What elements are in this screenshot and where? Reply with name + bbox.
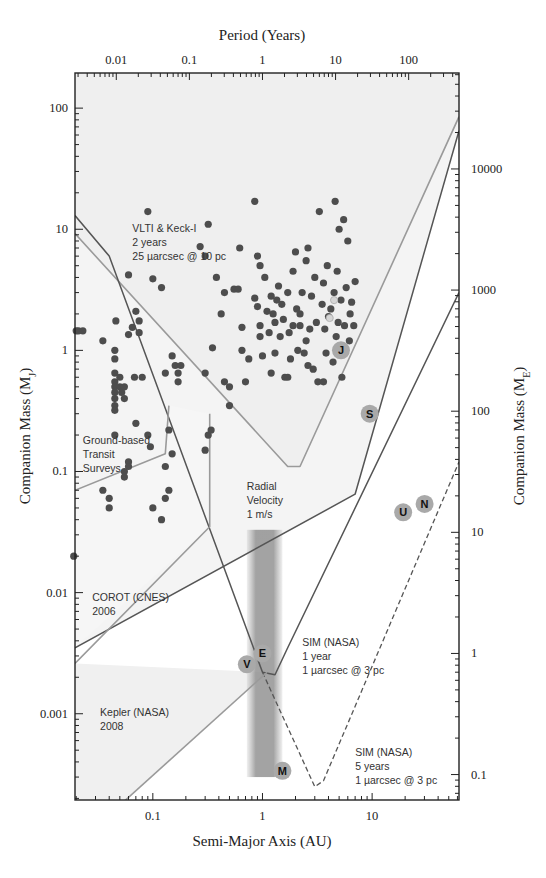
planet-point [139, 374, 146, 381]
planet-point [306, 325, 313, 332]
solar-planet-u: U [394, 503, 412, 521]
annotation-line: Velocity [247, 494, 284, 506]
annotation-line: SIM (NASA) [355, 746, 412, 758]
planet-point [336, 226, 343, 233]
right-tick-label: 1000 [471, 283, 496, 297]
top-tick-label: 10 [329, 53, 342, 67]
annotation-line: SIM (NASA) [302, 636, 359, 648]
x-tick-label: 0.1 [145, 809, 161, 823]
planet-point [136, 317, 143, 324]
planet-point [347, 310, 354, 317]
planet-point [259, 352, 266, 359]
planet-point [121, 395, 128, 402]
planet-point [169, 450, 176, 457]
planet-point [221, 289, 228, 296]
right-tick-label: 10 [471, 525, 484, 539]
solar-planet-v: V [238, 655, 256, 673]
planet-point [209, 344, 216, 351]
planet-point [175, 378, 182, 385]
planet-point [256, 322, 263, 329]
planet-point [344, 237, 351, 244]
planet-point [106, 495, 113, 502]
solar-planet-label: N [421, 498, 429, 510]
right-y-axis-title: Companion Mass (ME) [511, 367, 532, 506]
planet-point [125, 271, 132, 278]
planet-point [316, 208, 323, 215]
annotation-line: Transit [83, 448, 115, 460]
planet-point [129, 324, 136, 331]
planet-point [106, 504, 113, 511]
solar-planet-label: J [338, 344, 344, 356]
planet-point [165, 426, 172, 433]
solar-planet-e: E [253, 644, 271, 662]
planet-point [205, 221, 212, 228]
solar-planet-label: S [366, 408, 373, 420]
annotation-line: 2 years [132, 236, 166, 248]
highlighted-planet-point [330, 297, 337, 304]
planet-point [277, 333, 284, 340]
planet-point [322, 349, 329, 356]
planet-point [301, 349, 308, 356]
annotation-4: SIM (NASA)1 year1 µarcsec @ 3 pc [302, 636, 384, 676]
planet-point [251, 198, 258, 205]
planet-point [271, 319, 278, 326]
planet-point [245, 355, 252, 362]
planet-point [79, 327, 86, 334]
planet-point [251, 295, 258, 302]
planet-point [236, 244, 243, 251]
planet-point [289, 322, 296, 329]
planet-point [341, 322, 348, 329]
planet-point [111, 355, 118, 362]
planet-point [348, 299, 355, 306]
planet-point [213, 274, 220, 281]
planet-point [202, 447, 209, 454]
planet-point [319, 301, 326, 308]
planet-point [320, 378, 327, 385]
annotation-line: 5 years [355, 760, 389, 772]
y-tick-label: 100 [49, 101, 68, 115]
highlighted-planet-point [326, 314, 333, 321]
planet-point [324, 262, 331, 269]
planet-point [308, 293, 315, 300]
planet-point [238, 324, 245, 331]
right-tick-label: 0.1 [471, 768, 487, 782]
annotation-line: 1 m/s [247, 508, 273, 520]
planet-point [289, 268, 296, 275]
annotation-line: 2006 [92, 605, 116, 617]
solar-planet-s: S [361, 405, 379, 423]
planet-point [327, 305, 334, 312]
planet-point [175, 369, 182, 376]
planet-point [218, 310, 225, 317]
planet-point [136, 329, 143, 336]
planet-point [125, 331, 132, 338]
planet-point [292, 248, 299, 255]
planet-point [235, 286, 242, 293]
planet-point [321, 325, 328, 332]
planet-point [177, 362, 184, 369]
solar-planet-m: M [273, 762, 291, 780]
y-tick-label: 0.01 [46, 586, 68, 600]
right-tick-label: 1 [471, 646, 477, 660]
annotation-5: SIM (NASA)5 years1 µarcsec @ 3 pc [355, 746, 437, 786]
annotation-line: Kepler (NASA) [100, 706, 169, 718]
planet-point [121, 473, 128, 480]
top-tick-label: 100 [399, 53, 418, 67]
planet-point [296, 322, 303, 329]
planet-point [320, 279, 327, 286]
planet-point [144, 208, 151, 215]
x-tick-label: 1 [259, 809, 265, 823]
planet-point [162, 369, 169, 376]
planet-point [158, 284, 165, 291]
annotation-line: Ground-based [83, 434, 150, 446]
planet-point [346, 337, 353, 344]
planet-point [149, 275, 156, 282]
planet-point [284, 289, 291, 296]
planet-point [287, 355, 294, 362]
y-tick-label: 0.1 [52, 464, 68, 478]
planet-point [165, 487, 172, 494]
planet-point [271, 349, 278, 356]
planet-point [337, 297, 344, 304]
solar-planet-j: J [332, 341, 350, 359]
planet-point [254, 303, 261, 310]
y-tick-label: 1 [62, 343, 68, 357]
